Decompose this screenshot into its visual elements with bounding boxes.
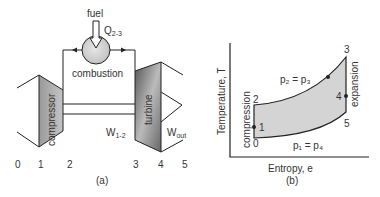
point-0-label: 0 — [253, 138, 259, 149]
flow-arrow-left — [72, 48, 77, 53]
station-1: 1 — [38, 159, 44, 170]
flow-arrow-right — [121, 48, 126, 53]
exhaust-line-top — [161, 62, 183, 75]
heat-input-label: Q2-3 — [104, 25, 122, 37]
station-4: 4 — [158, 159, 164, 170]
station-3: 3 — [133, 159, 139, 170]
x-axis-label: Entropy, e — [268, 163, 313, 174]
point-2-label: 2 — [253, 94, 259, 105]
brayton-cycle-figure: compressor fuel Q2-3 combustion turbine … — [0, 0, 380, 197]
compression-label: compression — [241, 91, 252, 148]
station-0: 0 — [15, 159, 21, 170]
panel-b-caption: (b) — [286, 175, 298, 186]
station-5: 5 — [182, 159, 188, 170]
work-in-label: W1-2 — [106, 127, 126, 139]
combustion-label: combustion — [72, 68, 123, 79]
work-out-arrow-icon — [161, 92, 182, 122]
cycle-area — [254, 57, 346, 138]
expansion-label: expansion — [349, 61, 360, 107]
point-1-label: 1 — [259, 122, 265, 133]
low-pressure-label: p₁ = p₄ — [293, 140, 323, 151]
inlet-line-top — [17, 75, 39, 88]
point-3-label: 3 — [344, 44, 350, 55]
station-2: 2 — [67, 159, 73, 170]
point-5-label: 5 — [344, 118, 350, 129]
engine-schematic: compressor fuel Q2-3 combustion turbine … — [15, 8, 188, 186]
high-pressure-label: p₂ = p₃ — [280, 74, 310, 85]
point-4-label: 4 — [336, 91, 342, 102]
turbine-label: turbine — [143, 94, 154, 125]
y-axis-label: Temperature, T — [216, 67, 227, 135]
point-1-marker — [252, 125, 256, 129]
compressor-label: compressor — [46, 93, 57, 146]
exhaust-line-bottom — [161, 140, 183, 152]
panel-a-caption: (a) — [96, 175, 108, 186]
fuel-label: fuel — [87, 8, 103, 19]
ts-diagram: 0 1 2 3 4 5 p₂ = p₃ p₁ = p₄ compression … — [216, 43, 369, 186]
work-out-label: Wout — [167, 127, 186, 139]
inlet-line-bottom — [17, 132, 39, 147]
heat-arrow-marker — [326, 75, 330, 79]
point-4-marker — [344, 94, 348, 98]
